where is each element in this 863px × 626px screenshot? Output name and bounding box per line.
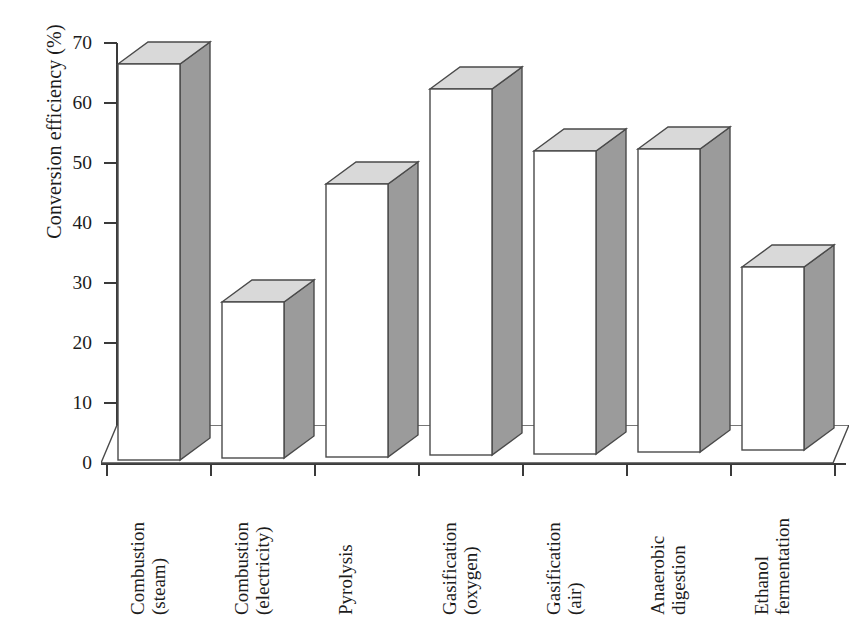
- x-axis-label-2: Combustion(electricity): [231, 522, 273, 615]
- x-axis-label-1: Combustion(steam): [127, 522, 169, 615]
- bar-7: [742, 245, 804, 450]
- x-axis-label-line1: Combustion: [231, 522, 252, 615]
- x-axis-label-line2: digestion: [668, 536, 689, 615]
- x-axis-label-line2: (electricity): [252, 522, 273, 615]
- x-axis-label-line1: Combustion: [127, 522, 148, 615]
- x-axis-label-line1: Anaerobic: [647, 536, 668, 615]
- bar-chart: Conversion efficiency (%) 70605040302010…: [0, 0, 863, 626]
- bar-2: [222, 280, 284, 458]
- x-axis-label-line1: Gasification: [439, 522, 460, 615]
- x-axis-label-line2: (oxygen): [460, 522, 481, 615]
- x-axis-label-line1: Ethanol: [751, 556, 772, 615]
- x-axis-label-4: Gasification(oxygen): [439, 522, 481, 615]
- bar-6: [638, 127, 700, 452]
- x-axis-label-line2: (steam): [148, 522, 169, 615]
- x-axis-label-line2: fermentation: [772, 518, 793, 615]
- x-axis-label-7: Ethanolfermentation: [751, 518, 793, 615]
- bar-3: [326, 162, 388, 457]
- x-axis-label-5: Gasification(air): [543, 522, 585, 615]
- x-axis-label-3: Pyrolysis: [335, 544, 356, 615]
- x-axis-label-6: Anaerobicdigestion: [647, 536, 689, 615]
- x-axis-label-line1: Gasification: [543, 522, 564, 615]
- x-axis-label-line1: Pyrolysis: [335, 544, 356, 615]
- bar-1: [118, 42, 180, 460]
- bar-5: [534, 129, 596, 454]
- bar-4: [430, 67, 492, 455]
- x-axis-label-line2: (air): [564, 522, 585, 615]
